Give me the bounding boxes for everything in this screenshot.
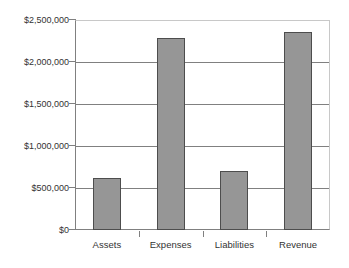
x-tick-label-revenue: Revenue bbox=[279, 240, 317, 250]
x-tick-label-liabilities: Liabilities bbox=[215, 240, 254, 250]
x-tick-mark-1 bbox=[139, 231, 140, 237]
y-tick-label-2000000: $2,000,000 bbox=[24, 58, 69, 67]
bar-liabilities[interactable] bbox=[220, 171, 248, 230]
x-tick-mark-2 bbox=[203, 231, 204, 237]
y-tick-label-0: $0 bbox=[59, 226, 69, 235]
y-tick-label-500000: $500,000 bbox=[31, 184, 69, 193]
y-tick-label-2500000: $2,500,000 bbox=[24, 16, 69, 25]
x-tick-mark-3 bbox=[266, 231, 267, 237]
y-tick-label-1500000: $1,500,000 bbox=[24, 100, 69, 109]
x-tick-label-assets: Assets bbox=[93, 240, 122, 250]
y-tick-label-1000000: $1,000,000 bbox=[24, 142, 69, 151]
bars-layer bbox=[75, 20, 330, 230]
bar-assets[interactable] bbox=[93, 178, 121, 230]
x-tick-label-expenses: Expenses bbox=[150, 240, 192, 250]
bar-revenue[interactable] bbox=[284, 32, 312, 230]
bar-chart: $0$500,000$1,000,000$1,500,000$2,000,000… bbox=[0, 0, 349, 268]
bar-expenses[interactable] bbox=[157, 38, 185, 230]
